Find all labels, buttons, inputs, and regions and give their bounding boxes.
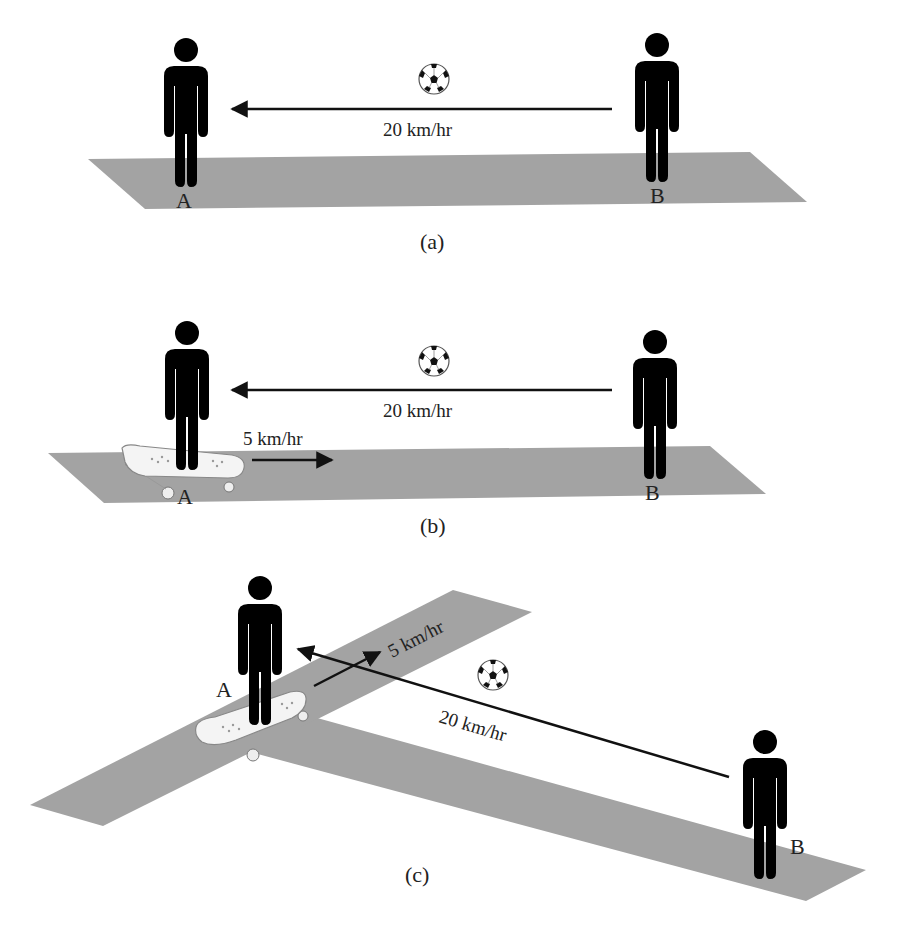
soccer-ball-icon [419, 346, 449, 376]
person-icon [165, 321, 209, 470]
panel-a: 20 km/hr A B (a) [88, 33, 807, 254]
ball-speed-label: 20 km/hr [383, 400, 453, 421]
panel-b: 20 km/hr 5 km/hr A B (b) [48, 321, 766, 538]
person-a-label: A [176, 188, 192, 213]
ball-speed-label: 20 km/hr [437, 706, 510, 746]
skateboard-speed-label: 5 km/hr [243, 428, 303, 449]
relative-velocity-diagram: 20 km/hr A B (a) 20 km/hr [0, 0, 897, 932]
person-b-label: B [650, 183, 665, 208]
panel-c: 20 km/hr 5 km/hr A B (c) [30, 576, 866, 901]
person-b-label: B [645, 480, 660, 505]
ball-speed-label: 20 km/hr [383, 119, 453, 140]
soccer-ball-icon [419, 64, 449, 94]
person-b-label: B [790, 834, 805, 859]
panel-caption: (c) [405, 862, 429, 887]
panel-caption: (a) [420, 229, 444, 254]
panel-caption: (b) [420, 513, 446, 538]
soccer-ball-icon [478, 660, 508, 690]
person-a-label: A [216, 677, 232, 702]
person-a-label: A [177, 484, 193, 509]
